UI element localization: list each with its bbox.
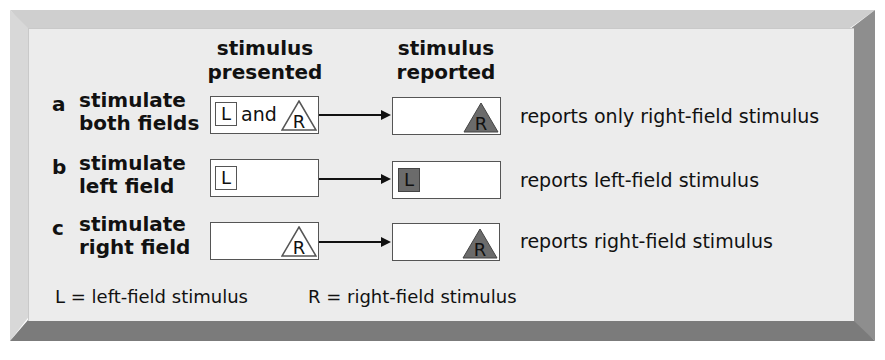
row-c-letter: c bbox=[52, 217, 72, 240]
row-b-label: stimulate left field bbox=[79, 152, 186, 198]
row-a-letter: a bbox=[52, 93, 72, 116]
row-b-letter: b bbox=[52, 156, 72, 179]
svg-text:R: R bbox=[474, 239, 487, 259]
row-a-label: stimulate both fields bbox=[79, 89, 199, 135]
row-label-line-1: stimulate bbox=[79, 213, 190, 236]
row-label-line-2: left field bbox=[79, 175, 186, 198]
header-line-2: reported bbox=[366, 60, 526, 84]
row-b-presented-box: L bbox=[210, 159, 319, 197]
row-a-description: reports only right-field stimulus bbox=[520, 104, 819, 128]
square-icon: L bbox=[215, 166, 237, 190]
svg-text:R: R bbox=[293, 111, 306, 131]
row-a-presented-box: L and R bbox=[210, 96, 319, 134]
row-c-description: reports right-field stimulus bbox=[520, 229, 773, 253]
header-stimulus-presented: stimulus presented bbox=[185, 36, 345, 84]
header-line-2: presented bbox=[185, 60, 345, 84]
row-label-line-2: both fields bbox=[79, 112, 199, 135]
triangle-filled-icon: R bbox=[462, 228, 498, 259]
row-label-line-1: stimulate bbox=[79, 152, 186, 175]
svg-text:R: R bbox=[293, 237, 306, 257]
svg-text:R: R bbox=[475, 113, 488, 133]
row-label-line-2: right field bbox=[79, 236, 190, 259]
triangle-icon: R bbox=[281, 226, 317, 257]
row-label-line-1: stimulate bbox=[79, 89, 199, 112]
row-c-label: stimulate right field bbox=[79, 213, 190, 259]
and-connector: and bbox=[241, 102, 277, 126]
legend-left-stimulus: L = left-field stimulus bbox=[55, 286, 248, 308]
arrow-icon bbox=[319, 178, 389, 180]
triangle-icon: R bbox=[281, 100, 317, 131]
header-stimulus-reported: stimulus reported bbox=[366, 36, 526, 84]
legend-right-stimulus: R = right-field stimulus bbox=[308, 286, 517, 308]
square-filled-icon: L bbox=[398, 168, 420, 192]
row-c-reported-box: R bbox=[392, 223, 500, 261]
row-b-description: reports left-field stimulus bbox=[520, 168, 759, 192]
square-icon: L bbox=[215, 102, 237, 126]
arrow-icon bbox=[319, 241, 389, 243]
row-a-reported-box: R bbox=[392, 97, 501, 135]
row-b-reported-box: L bbox=[392, 161, 501, 199]
triangle-filled-icon: R bbox=[463, 102, 499, 133]
header-line-1: stimulus bbox=[366, 36, 526, 60]
arrow-icon bbox=[319, 114, 389, 116]
row-c-presented-box: R bbox=[210, 222, 319, 260]
header-line-1: stimulus bbox=[185, 36, 345, 60]
